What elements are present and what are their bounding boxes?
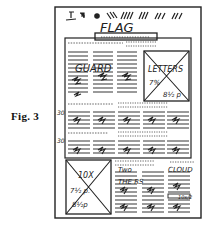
bottom-headline-scribble-2: THE RS: [118, 178, 144, 186]
masthead-ornaments: [66, 12, 182, 20]
top-photo-caption-1: LETTERS: [148, 65, 183, 74]
top-photo-caption-2: 7%: [149, 79, 160, 87]
bottom-dots: [115, 161, 195, 165]
top-photo-caption-3: 8½ p: [163, 91, 181, 99]
middle-row2-note: 30: [57, 137, 65, 144]
middle-row2-dots: [68, 132, 168, 136]
top-headline-scribble: GUARD: [75, 63, 112, 74]
newspaper-layout-diagram: FLAG GUARD LETTERS 7% 8½ p: [0, 0, 220, 226]
bottom-headline-scribble-3: CLOUD: [168, 166, 193, 174]
bottom-photo-box: 10X 7½ p. 8½p: [66, 160, 111, 214]
nameplate-box: [95, 33, 157, 40]
bottom-photo-caption-2: 7½ p.: [70, 187, 90, 195]
top-photo-box: LETTERS 7% 8½ p: [144, 51, 189, 101]
middle-row1-note: 30: [57, 109, 65, 116]
middle-row1-dots: [68, 103, 168, 107]
bottom-headline-scribble-1: Two: [118, 166, 132, 174]
top-headline-dots: [68, 42, 156, 46]
bottom-margin-note: 10x/2: [178, 194, 192, 200]
bottom-photo-caption-3: 8½p: [72, 201, 88, 209]
bottom-photo-caption-1: 10X: [78, 171, 94, 180]
